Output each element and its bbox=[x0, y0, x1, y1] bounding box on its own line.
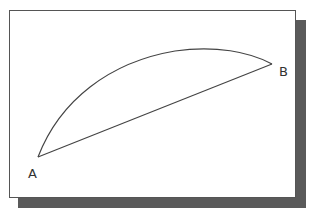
diagram-drawing bbox=[0, 0, 311, 214]
arc-a-to-b bbox=[38, 49, 272, 157]
point-label-a: A bbox=[28, 167, 37, 180]
point-label-b: B bbox=[279, 65, 288, 78]
diagram-canvas: A B bbox=[0, 0, 311, 214]
chord-a-to-b bbox=[38, 64, 272, 157]
